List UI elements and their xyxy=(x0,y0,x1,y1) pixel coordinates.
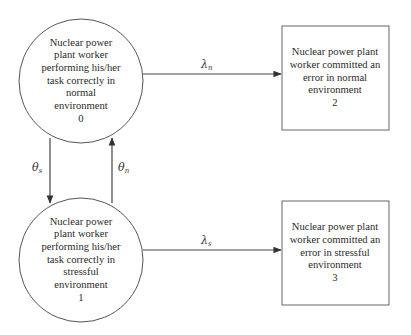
state-1-label: Nuclear power plant worker performing hi… xyxy=(33,212,129,308)
state-2-number: 2 xyxy=(332,97,337,110)
state-1-line-6: environment xyxy=(54,279,108,292)
lambda-s-symbol: λ xyxy=(201,234,208,247)
state-2-line-4: environment xyxy=(308,84,362,97)
state-0-number: 0 xyxy=(78,113,83,126)
state-3-line-3: error in stressful xyxy=(300,247,369,260)
state-1-number: 1 xyxy=(78,292,83,305)
state-0-line-5: normal xyxy=(66,87,96,100)
state-3-line-4: environment xyxy=(308,259,362,272)
theta-s-symbol: θ xyxy=(32,161,39,174)
state-2-label: Nuclear power plant worker committed an … xyxy=(282,26,388,130)
state-2-line-2: worker committed an xyxy=(290,59,381,72)
state-0-line-2: plant worker xyxy=(54,49,108,62)
state-2-line-1: Nuclear power plant xyxy=(292,46,378,59)
state-1-line-4: task correctly in xyxy=(47,254,115,267)
theta-n-label: θn xyxy=(118,161,129,175)
state-1-line-1: Nuclear power xyxy=(50,216,113,229)
state-1-line-3: performing his/her xyxy=(41,241,120,254)
lambda-s-subscript: s xyxy=(208,240,212,248)
state-3-number: 3 xyxy=(332,272,337,285)
state-0-line-1: Nuclear power xyxy=(50,37,113,50)
lambda-n-symbol: λ xyxy=(201,58,208,71)
state-0-line-6: environment xyxy=(54,100,108,113)
state-0-line-3: performing his/her xyxy=(41,62,120,75)
theta-n-symbol: θ xyxy=(118,161,125,174)
state-3-line-2: worker committed an xyxy=(290,234,381,247)
state-0-line-4: task correctly in xyxy=(47,75,115,88)
state-3-line-1: Nuclear power plant xyxy=(292,221,378,234)
state-3-label: Nuclear power plant worker committed an … xyxy=(282,201,388,305)
theta-s-subscript: s xyxy=(39,167,43,175)
theta-n-subscript: n xyxy=(125,167,130,175)
lambda-n-label: λn xyxy=(201,58,213,72)
state-1-line-2: plant worker xyxy=(54,228,108,241)
state-2-line-3: error in normal xyxy=(303,72,367,85)
lambda-s-label: λs xyxy=(201,234,212,248)
lambda-n-subscript: n xyxy=(208,64,213,72)
state-1-line-5: stressful xyxy=(63,266,98,279)
theta-s-label: θs xyxy=(32,161,42,175)
state-0-label: Nuclear power plant worker performing hi… xyxy=(33,33,129,129)
